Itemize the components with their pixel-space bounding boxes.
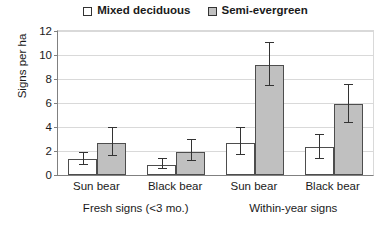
error-bar-cap-bottom <box>79 164 88 165</box>
error-bar-cap-top <box>158 158 167 159</box>
x-group-label: Within-year signs <box>249 202 337 214</box>
legend-item: Mixed deciduous <box>83 5 190 17</box>
x-tick-label: Black bear <box>148 180 202 192</box>
error-bar-cap-top <box>236 127 245 128</box>
y-tick-label: 6 <box>46 97 52 109</box>
y-tick-label: 0 <box>46 169 52 181</box>
y-tick-label: 2 <box>46 145 52 157</box>
legend-item-label: Mixed deciduous <box>97 5 190 17</box>
y-tick-label: 4 <box>46 121 52 133</box>
error-bar-cap-bottom <box>236 154 245 155</box>
legend-swatch-icon <box>208 7 217 16</box>
error-bar-cap-bottom <box>108 155 117 156</box>
error-bar-stem <box>348 84 349 124</box>
x-group-label: Fresh signs (<3 mo.) <box>83 202 189 214</box>
error-bar-stem <box>191 139 192 161</box>
error-bar-cap-top <box>187 139 196 140</box>
bar-chart: Mixed deciduousSemi-evergreen Signs per … <box>0 0 391 228</box>
y-tick-label: 12 <box>39 25 52 37</box>
error-bar-stem <box>269 42 270 86</box>
error-bar-stem <box>240 127 241 155</box>
plot-area: 024681012 <box>57 30 374 176</box>
legend-item-label: Semi-evergreen <box>222 5 308 17</box>
chart-legend: Mixed deciduousSemi-evergreen <box>0 2 391 20</box>
x-tick-label: Black bear <box>305 180 359 192</box>
error-bar-cap-top <box>344 84 353 85</box>
y-tick-mark <box>54 175 58 176</box>
error-bar-cap-top <box>108 127 117 128</box>
error-bar-cap-bottom <box>315 158 324 159</box>
legend-item: Semi-evergreen <box>208 5 308 17</box>
error-bar-cap-top <box>315 134 324 135</box>
error-bar-cap-bottom <box>158 168 167 169</box>
error-bar-stem <box>319 134 320 159</box>
error-bar-cap-bottom <box>265 85 274 86</box>
bar-series-container <box>58 31 373 175</box>
y-tick-label: 8 <box>46 73 52 85</box>
y-axis-title: Signs per ha <box>16 16 28 116</box>
error-bar-cap-top <box>265 42 274 43</box>
error-bar-stem <box>112 127 113 156</box>
x-tick-label: Sun bear <box>231 180 278 192</box>
y-tick-label: 10 <box>39 49 52 61</box>
legend-swatch-icon <box>83 7 92 16</box>
error-bar-cap-top <box>79 152 88 153</box>
error-bar-cap-bottom <box>344 122 353 123</box>
x-tick-label: Sun bear <box>73 180 120 192</box>
error-bar-cap-bottom <box>187 160 196 161</box>
